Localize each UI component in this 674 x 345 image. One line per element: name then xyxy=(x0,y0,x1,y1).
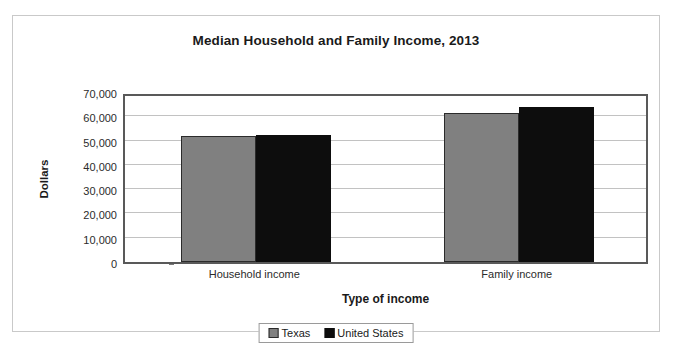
y-axis-tick-label: 0 xyxy=(67,258,117,270)
y-axis-title-label: Dollars xyxy=(37,160,49,199)
y-axis-tick-mark xyxy=(169,264,174,265)
bar-united-states-household-income[interactable] xyxy=(256,135,331,262)
bar-group xyxy=(181,96,331,262)
y-axis-tick-label: 40,000 xyxy=(67,161,117,173)
y-axis-tick-label: 10,000 xyxy=(67,234,117,246)
plot-area xyxy=(123,94,648,264)
chart-frame: Median Household and Family Income, 2013… xyxy=(12,15,660,332)
chart-title: Median Household and Family Income, 2013 xyxy=(13,33,659,48)
bar-group xyxy=(444,96,594,262)
x-axis-tick-label: Family income xyxy=(481,268,552,280)
legend-swatch-icon xyxy=(269,328,279,338)
y-axis-tick-label: 60,000 xyxy=(67,112,117,124)
chart-legend: TexasUnited States xyxy=(259,323,414,343)
y-axis-tick-labels: 010,00020,00030,00040,00050,00060,00070,… xyxy=(65,94,117,264)
bar-united-states-family-income[interactable] xyxy=(519,107,594,262)
x-axis-tick-labels: Household incomeFamily income xyxy=(123,268,648,284)
y-axis-tick-label: 50,000 xyxy=(67,137,117,149)
bar-texas-household-income[interactable] xyxy=(181,136,256,262)
x-axis-title: Type of income xyxy=(123,292,648,306)
y-axis-title: Dollars xyxy=(35,124,51,234)
y-axis-tick-label: 20,000 xyxy=(67,209,117,221)
y-axis-tick-label: 70,000 xyxy=(67,88,117,100)
bar-series-container xyxy=(125,96,646,262)
legend-item[interactable]: United States xyxy=(324,327,403,339)
x-axis-tick-label: Household income xyxy=(209,268,300,280)
bar-texas-family-income[interactable] xyxy=(444,113,519,262)
legend-swatch-icon xyxy=(324,328,334,338)
legend-label: United States xyxy=(337,327,403,339)
y-axis-tick-label: 30,000 xyxy=(67,185,117,197)
legend-item[interactable]: Texas xyxy=(269,327,311,339)
legend-label: Texas xyxy=(282,327,311,339)
